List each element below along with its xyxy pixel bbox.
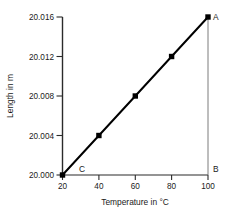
data-point-marker (205, 14, 210, 19)
annotation-label-b: B (213, 164, 219, 174)
y-axis-title: Length in m (5, 74, 15, 118)
y-tick-label-20016: 20.016 (29, 13, 54, 22)
x-tick-label-80: 80 (167, 182, 177, 191)
chart-background (0, 0, 247, 212)
y-tick-label-20000: 20.000 (29, 171, 54, 180)
data-point-marker (169, 54, 174, 59)
x-tick-label-40: 40 (94, 182, 104, 191)
data-point-marker (133, 93, 138, 98)
x-axis-title: Temperature in °C (101, 197, 169, 207)
annotation-label-a: A (213, 12, 219, 22)
data-point-marker (60, 172, 65, 177)
data-point-marker (96, 133, 101, 138)
thermal-expansion-line-chart: 20.016 20.012 20.008 20.004 20.000 20 40… (0, 0, 247, 212)
x-tick-label-60: 60 (131, 182, 141, 191)
y-tick-label-20012: 20.012 (29, 53, 54, 62)
annotation-label-c: C (79, 164, 85, 174)
x-tick-label-20: 20 (58, 182, 68, 191)
y-tick-label-20004: 20.004 (29, 132, 54, 141)
y-tick-label-20008: 20.008 (29, 92, 54, 101)
chart-container: 20.016 20.012 20.008 20.004 20.000 20 40… (0, 0, 247, 212)
x-tick-label-100: 100 (201, 182, 215, 191)
